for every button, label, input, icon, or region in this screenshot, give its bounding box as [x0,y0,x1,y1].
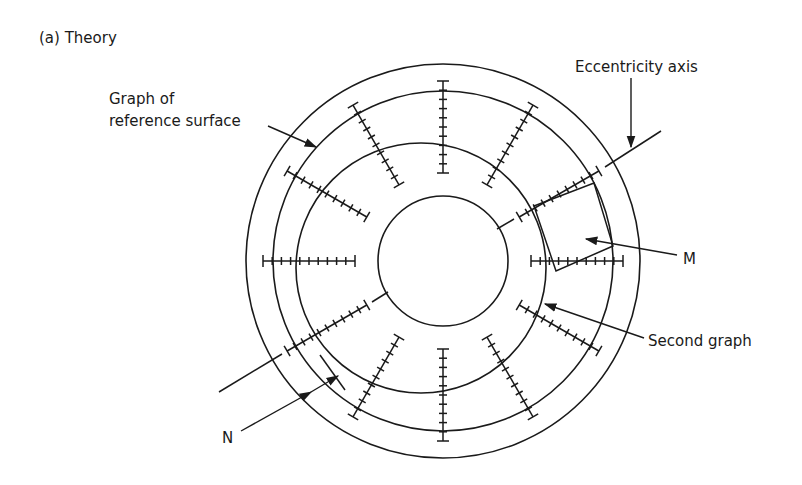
scale-tick [596,346,602,356]
n-label: N [222,429,233,447]
reference-label-line2: reference surface [109,112,241,130]
inner-circle [378,196,508,326]
scale-tick [516,212,522,222]
scale-tick [482,182,492,188]
n-leader [241,392,311,431]
m-label: M [683,250,696,268]
scale-tick [482,334,492,340]
figure-title: (a) Theory [39,29,117,47]
scale-tick [528,102,538,108]
eccentricity-diagram: (a) Theory Graph of reference surface Ec… [0,0,802,485]
n-leader-head2 [311,376,338,392]
scale-tick [348,414,358,420]
second-graph-leader [545,304,644,338]
scale-tick [348,102,358,108]
eccentricity-label: Eccentricity axis [575,58,698,76]
scale-tick [284,346,290,356]
reference-leader [268,126,316,147]
second-graph-circle [296,143,546,393]
scale-tick [516,300,522,310]
scale-tick [528,414,538,420]
scale-tick [284,166,290,176]
scale-tick [364,212,370,222]
scale-tick [394,182,404,188]
reference-label-line1: Graph of [109,90,175,108]
scale-tick [364,300,370,310]
second-graph-label: Second graph [648,332,752,350]
scale-tick [596,166,602,176]
radial-scales [263,81,623,441]
scale-tick [394,334,404,340]
